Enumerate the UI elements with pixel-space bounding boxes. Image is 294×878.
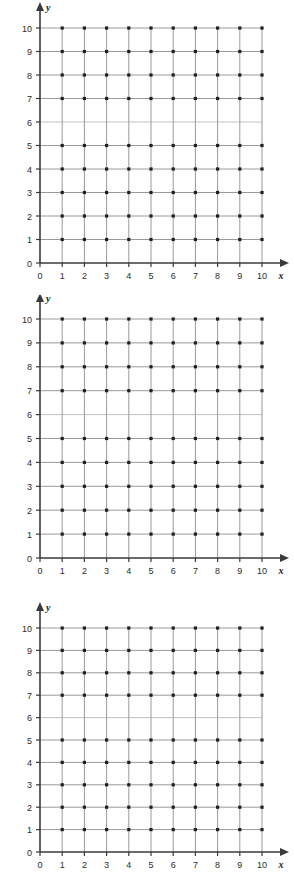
x-axis-arrow-icon (280, 848, 289, 856)
lattice-point (216, 144, 219, 147)
lattice-point (127, 694, 130, 697)
lattice-point (61, 828, 64, 831)
lattice-point (83, 317, 86, 320)
x-axis-arrow-icon (280, 554, 289, 562)
y-axis-tick-label: 7 (27, 94, 32, 104)
lattice-point (260, 671, 263, 674)
lattice-point (149, 738, 152, 741)
lattice-point (216, 738, 219, 741)
lattice-point (194, 828, 197, 831)
x-axis-name-label: x (278, 859, 284, 870)
lattice-point (61, 97, 64, 100)
lattice-point (83, 509, 86, 512)
lattice-point (127, 761, 130, 764)
tick-marks-group (36, 28, 262, 267)
lattice-point (194, 509, 197, 512)
lattice-point (216, 214, 219, 217)
lattice-point (238, 626, 241, 629)
lattice-point (172, 828, 175, 831)
lattice-point (172, 365, 175, 368)
lattice-point (127, 649, 130, 652)
lattice-point (172, 238, 175, 241)
lattice-point (194, 738, 197, 741)
lattice-point (172, 533, 175, 536)
lattice-point (172, 694, 175, 697)
lattice-point (216, 97, 219, 100)
lattice-point (127, 341, 130, 344)
tick-labels-group: 012345678910012345678910 (22, 24, 267, 282)
lattice-point (61, 806, 64, 809)
lattice-point (260, 783, 263, 786)
lattice-point (127, 73, 130, 76)
lattice-point (149, 389, 152, 392)
lattice-point (260, 214, 263, 217)
lattice-point (172, 26, 175, 29)
lattice-point (194, 97, 197, 100)
lattice-point (216, 26, 219, 29)
lattice-point (260, 533, 263, 536)
lattice-point (238, 317, 241, 320)
lattice-dots-group (61, 26, 264, 241)
lattice-point (127, 97, 130, 100)
lattice-point (194, 144, 197, 147)
lattice-point (61, 191, 64, 194)
lattice-point (172, 485, 175, 488)
lattice-point (105, 167, 108, 170)
y-axis-tick-label: 1 (27, 530, 32, 540)
lattice-point (216, 167, 219, 170)
lattice-point (260, 649, 263, 652)
lattice-point (149, 26, 152, 29)
lattice-point (127, 167, 130, 170)
lattice-point (127, 389, 130, 392)
y-axis-tick-label: 5 (27, 141, 32, 151)
coordinate-grid-figure-3: 012345678910012345678910xy (0, 585, 294, 878)
lattice-point (149, 806, 152, 809)
lattice-point (149, 50, 152, 53)
x-axis-tick-label: 1 (60, 566, 65, 576)
lattice-point (194, 485, 197, 488)
lattice-point (105, 533, 108, 536)
lattice-point (260, 828, 263, 831)
y-axis-tick-label: 5 (27, 736, 32, 746)
lattice-point (260, 437, 263, 440)
lattice-point (149, 341, 152, 344)
x-axis-tick-label: 3 (104, 566, 109, 576)
lattice-point (127, 485, 130, 488)
lattice-point (83, 738, 86, 741)
lattice-point (61, 365, 64, 368)
lattice-point (260, 806, 263, 809)
lattice-point (216, 626, 219, 629)
x-axis-tick-label: 5 (148, 860, 153, 870)
x-axis-tick-label: 9 (237, 271, 242, 281)
lattice-point (127, 626, 130, 629)
y-axis-tick-label: 2 (27, 212, 32, 222)
y-axis-tick-label: 8 (27, 362, 32, 372)
lattice-point (127, 783, 130, 786)
lattice-point (149, 509, 152, 512)
lattice-point (149, 649, 152, 652)
coordinate-grid-figure-2: 012345678910012345678910xy (0, 295, 294, 585)
x-axis-arrow-icon (280, 259, 289, 267)
lattice-point (238, 694, 241, 697)
lattice-point (172, 167, 175, 170)
y-axis-name-label: y (45, 295, 51, 304)
x-axis-tick-label: 8 (215, 271, 220, 281)
lattice-point (105, 341, 108, 344)
lattice-point (216, 365, 219, 368)
lattice-point (238, 214, 241, 217)
lattice-point (194, 649, 197, 652)
x-axis-tick-label: 4 (126, 566, 131, 576)
x-axis-tick-label: 2 (82, 566, 87, 576)
lattice-point (149, 626, 152, 629)
x-axis-tick-label: 7 (193, 566, 198, 576)
lattice-point (61, 509, 64, 512)
lattice-point (105, 26, 108, 29)
lattice-point (105, 649, 108, 652)
lattice-point (260, 626, 263, 629)
lattice-point (149, 694, 152, 697)
lattice-point (216, 649, 219, 652)
lattice-point (83, 167, 86, 170)
y-axis-tick-label: 2 (27, 506, 32, 516)
lattice-point (260, 365, 263, 368)
lattice-point (61, 437, 64, 440)
